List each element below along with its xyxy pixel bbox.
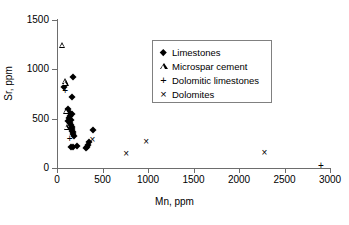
data-point-cross: × bbox=[122, 148, 131, 157]
legend-item-microspar-cement: Microspar cement bbox=[158, 59, 271, 73]
legend-label: Dolomites bbox=[172, 89, 214, 100]
data-point-cross: × bbox=[260, 147, 269, 156]
data-point-cross: × bbox=[88, 135, 97, 144]
data-point-plus: + bbox=[65, 134, 74, 143]
data-point-cross: × bbox=[142, 136, 151, 145]
x-tick bbox=[239, 169, 240, 173]
data-point-plus: + bbox=[316, 160, 325, 169]
y-axis-title: Sr, ppm bbox=[3, 54, 14, 114]
chart-legend: LimestonesMicrospar cement+Dolomitic lim… bbox=[152, 40, 272, 103]
data-point-plus: + bbox=[61, 86, 70, 95]
data-point-open-triangle bbox=[63, 108, 69, 114]
legend-label: Dolomitic limestones bbox=[172, 75, 259, 86]
legend-item-limestones: Limestones bbox=[158, 45, 271, 59]
x-tick-label: 2500 bbox=[265, 175, 305, 185]
legend-marker-filled-diamond-icon bbox=[158, 47, 169, 58]
x-tick bbox=[103, 169, 104, 173]
x-tick-label: 2000 bbox=[219, 175, 259, 185]
y-tick-label: 500 bbox=[3, 114, 49, 124]
legend-marker-open-triangle-icon bbox=[158, 61, 169, 72]
x-tick bbox=[57, 169, 58, 173]
x-tick-label: 1000 bbox=[128, 175, 168, 185]
legend-item-dolomitic-limestones: +Dolomitic limestones bbox=[158, 73, 271, 87]
x-axis-title: Mn, ppm bbox=[0, 196, 349, 207]
legend-label: Limestones bbox=[172, 47, 221, 58]
x-tick bbox=[148, 169, 149, 173]
scatter-plot-figure: 050010001500 050010001500200025003000 Sr… bbox=[0, 0, 349, 225]
legend-item-dolomites: ×Dolomites bbox=[158, 87, 271, 101]
x-tick-label: 3000 bbox=[310, 175, 349, 185]
x-tick-label: 500 bbox=[83, 175, 123, 185]
y-tick-label: 1500 bbox=[3, 15, 49, 25]
x-tick bbox=[285, 169, 286, 173]
x-tick-label: 1500 bbox=[174, 175, 214, 185]
data-point-open-triangle bbox=[59, 42, 65, 48]
x-tick-label: 0 bbox=[37, 175, 77, 185]
x-tick bbox=[330, 169, 331, 173]
y-tick-label: 0 bbox=[3, 163, 49, 173]
legend-marker-cross-icon: × bbox=[158, 89, 169, 100]
legend-label: Microspar cement bbox=[172, 61, 248, 72]
x-tick bbox=[194, 169, 195, 173]
legend-marker-plus-icon: + bbox=[158, 75, 169, 86]
data-point-open-triangle bbox=[64, 124, 70, 130]
